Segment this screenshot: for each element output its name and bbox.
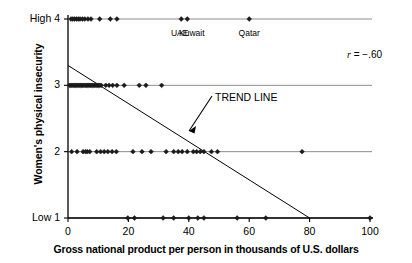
y-tick-label: 3	[0, 79, 60, 90]
data-points-group	[67, 17, 372, 221]
scatter-plot-figure: Women's physical insecurity Gross nation…	[0, 0, 412, 263]
x-tick-label: 60	[229, 226, 269, 237]
gridlines-group	[68, 19, 372, 218]
x-tick-label: 100	[350, 226, 390, 237]
trend-line	[68, 65, 310, 218]
y-axis-title: Women's physical insecurity	[32, 14, 44, 214]
x-tick-label: 40	[169, 226, 209, 237]
x-tick-label: 0	[48, 226, 88, 237]
y-tick-label: Low 1	[0, 212, 60, 223]
correlation-label: r = −.60	[347, 50, 382, 60]
axes-group	[68, 15, 373, 218]
trend-line-callout-arrow	[189, 96, 212, 134]
x-axis-title: Gross national product per person in tho…	[0, 243, 412, 255]
x-tick-label: 20	[108, 226, 148, 237]
country-label: Kuwait	[167, 29, 217, 38]
y-tick-label: 2	[0, 146, 60, 157]
country-label: Qatar	[224, 29, 274, 38]
y-tick-label: High 4	[0, 13, 60, 24]
x-tick-label: 80	[290, 226, 330, 237]
correlation-value: = −.60	[351, 49, 382, 60]
trend-line-annotation: TREND LINE	[215, 92, 277, 103]
plot-canvas	[0, 0, 412, 263]
tick-marks-group	[64, 19, 370, 222]
